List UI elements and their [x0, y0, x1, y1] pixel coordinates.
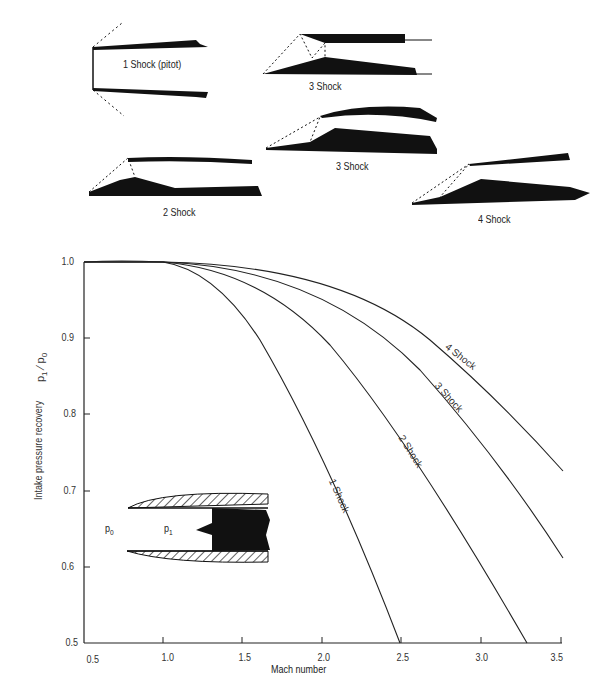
- sketch-label-4-shock: 4 Shock: [478, 213, 511, 225]
- sketch-4-shock: [412, 153, 590, 205]
- inset-intake-sketch: [127, 493, 270, 562]
- sketch-2-shock: [89, 157, 262, 196]
- x-tick-2.0: 2.0: [317, 651, 330, 663]
- sketch-label-3-shock-b: 3 Shock: [336, 160, 369, 172]
- y-tick-0.7: 0.7: [63, 484, 76, 496]
- curve-2-shock: [84, 262, 527, 643]
- y-tick-1.0: 1.0: [61, 255, 74, 267]
- inset-label-p1: p1: [164, 522, 173, 537]
- sketch-3-shock-b: [266, 107, 437, 154]
- y-axis-ratio-label: p1 ⁄ p0: [34, 353, 49, 382]
- y-tick-0.6: 0.6: [61, 560, 74, 572]
- figure-canvas: [0, 0, 596, 692]
- x-tick-0.5: 0.5: [86, 653, 99, 665]
- sketch-label-3-shock-a: 3 Shock: [309, 80, 342, 92]
- x-tick-1.0: 1.0: [161, 651, 174, 663]
- y-tick-0.9: 0.9: [61, 331, 74, 343]
- y-axis-label: Intake pressure recovery: [32, 401, 44, 500]
- x-axis-label: Mach number: [271, 663, 326, 675]
- curve-3-shock: [84, 262, 563, 558]
- curve-1-shock: [84, 261, 400, 643]
- sketch-3-shock-a: [263, 34, 432, 75]
- inset-label-p0: p0: [105, 522, 114, 537]
- x-tick-1.5: 1.5: [238, 651, 251, 663]
- sketch-label-1-shock-pitot: 1 Shock (pitot): [123, 58, 181, 70]
- x-tick-3.5: 3.5: [550, 651, 563, 663]
- chart-axes: [84, 262, 562, 643]
- sketch-label-2-shock: 2 Shock: [163, 206, 196, 218]
- x-tick-3.0: 3.0: [475, 651, 488, 663]
- curve-4-shock: [84, 262, 563, 471]
- y-tick-0.5: 0.5: [65, 636, 78, 648]
- y-tick-0.8: 0.8: [63, 407, 76, 419]
- x-tick-2.5: 2.5: [396, 651, 409, 663]
